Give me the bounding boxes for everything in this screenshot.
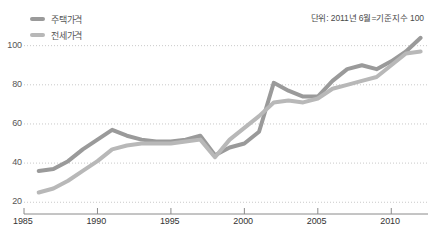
legend-swatch-housing-price [30,17,45,21]
legend-item-jeonse-price[interactable]: 전세가격 [30,28,82,42]
x-axis-label: 1985 [13,216,33,226]
legend-label-housing-price: 주택가격 [51,13,82,26]
x-axis-label: 1990 [86,216,106,226]
legend-swatch-jeonse-price [30,33,45,37]
unit-note: 단위: 2011년 6월=기준지수 100 [311,11,425,23]
x-axis-label: 1995 [160,216,180,226]
y-axis-label: 40 [0,157,22,167]
y-axis-label: 60 [0,118,22,128]
data-series-group [39,38,421,193]
chart-legend: 주택가격 전세가격 [30,12,82,44]
legend-label-jeonse-price: 전세가격 [51,29,82,42]
series-line-jeonse-price [39,52,421,193]
gridlines [24,46,428,203]
x-axis-label: 2000 [233,216,253,226]
x-axis-ticks [24,208,391,214]
y-axis-label: 80 [0,79,22,89]
y-axis-label: 20 [0,196,22,206]
chart-container: 단위: 2011년 6월=기준지수 100 주택가격 전세가격 20406080… [0,0,434,245]
series-line-housing-price [39,38,421,171]
y-axis-label: 100 [0,40,22,50]
x-axis-label: 2010 [380,216,400,226]
legend-item-housing-price[interactable]: 주택가격 [30,12,82,26]
x-axis-label: 2005 [307,216,327,226]
